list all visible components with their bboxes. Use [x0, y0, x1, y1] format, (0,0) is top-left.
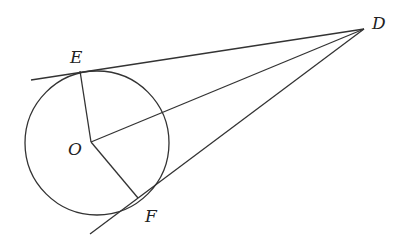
label-e: E — [69, 47, 83, 67]
geometry-figure: D E O F — [0, 0, 408, 250]
radius-oe — [80, 71, 91, 142]
circle-o — [25, 71, 169, 215]
radius-of — [91, 142, 138, 198]
label-f: F — [144, 206, 158, 226]
label-d: D — [371, 13, 386, 33]
segment-od — [91, 29, 364, 142]
tangent-line-df — [90, 29, 364, 234]
label-o: O — [68, 139, 82, 159]
